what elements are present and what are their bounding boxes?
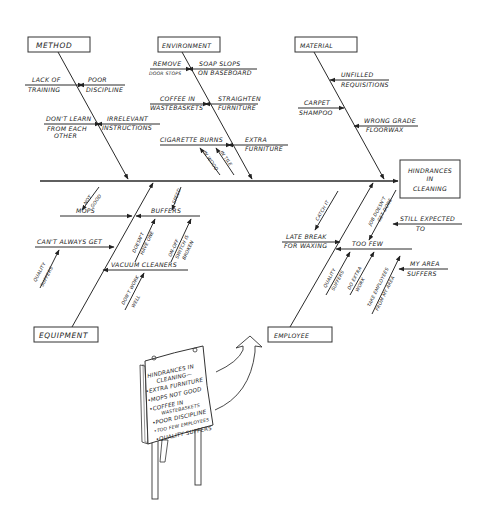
cause-text: POOR	[88, 76, 107, 83]
cause-text: CAN'T ALWAYS GET	[37, 238, 103, 245]
equipment-branch: EQUIPMENT NOT GOOD MOPS SPEED BUFFERS DO…	[32, 183, 200, 342]
fishbone-diagram: HINDRANCES IN CLEANING METHOD LACK OF TR…	[0, 0, 483, 523]
environment-branch: ENVIRONMENT REMOVE DOOR STOPS SOAP SLOPS…	[149, 37, 288, 179]
cause-text: DON'T LEARN	[46, 115, 92, 122]
cause-text: REMOVE	[153, 60, 181, 67]
cause-text: FROM EACH	[47, 125, 87, 132]
cause-text: STRAIGHTEN	[218, 95, 261, 102]
cause-text: REQUISITIONS	[341, 81, 389, 88]
cause-text: INSTRUCTIONS	[102, 124, 152, 131]
environment-label: ENVIRONMENT	[162, 42, 212, 49]
cause-text: OTHER	[54, 132, 77, 139]
sign-post-back	[160, 440, 168, 462]
cause-text: FLOORWAX	[366, 126, 404, 133]
effect-line2: IN	[426, 175, 433, 182]
cause-text: TRAINING	[28, 86, 60, 93]
employee-label: EMPLOYEE	[274, 332, 309, 339]
effect-box: HINDRANCES IN CLEANING	[400, 160, 460, 198]
cause-text: ON BASEBOARD	[198, 69, 252, 76]
sign-illustration: HINDRANCES IN CLEANING— •EXTRA FURNITURE…	[140, 336, 262, 499]
method-label: METHOD	[36, 41, 72, 50]
cause-text: EXTRA	[245, 136, 267, 143]
cause-text: MOPS	[76, 207, 95, 214]
cause-text: FURNITURE	[245, 145, 283, 152]
cause-text: STILL EXPECTED	[400, 215, 455, 222]
material-label: MATERIAL	[300, 42, 333, 49]
cause-text: WRONG GRADE	[364, 117, 416, 124]
cause-text: CARPET	[304, 99, 331, 106]
cause-text: SPEED	[171, 187, 182, 204]
material-branch: MATERIAL UNFILLED REQUISITIONS CARPET SH…	[295, 37, 418, 179]
cause-text: LATE BREAK	[286, 233, 327, 240]
cause-text: BUFFERS	[151, 207, 181, 214]
curved-arrow-icon	[215, 336, 262, 410]
cause-text: IRRELEVANT	[107, 115, 149, 122]
cause-text: IN TILE	[219, 150, 233, 167]
cause-text: MY AREA	[410, 260, 440, 267]
cause-text: SHAMPOO	[299, 109, 333, 116]
cause-text: WASTEBASKETS	[150, 104, 203, 111]
cause-text: DISCIPLINE	[86, 86, 123, 93]
cause-text: SOAP SLOPS	[199, 60, 240, 67]
employee-branch: EMPLOYEE CATCH IT LATE BREAK FOR WAXING …	[268, 183, 462, 342]
cause-text: IN WOOD	[202, 150, 219, 172]
method-branch: METHOD LACK OF TRAINING POOR DISCIPLINE …	[25, 37, 160, 179]
cause-text: TOO FEW	[352, 240, 384, 247]
equipment-label: EQUIPMENT	[39, 331, 88, 340]
effect-line3: CLEANING	[413, 185, 447, 192]
cause-text: LACK OF	[32, 76, 61, 83]
cause-text: FOR WAXING	[284, 242, 327, 249]
cause-text: COFFEE IN	[160, 95, 195, 102]
sign-post-right	[195, 430, 201, 485]
cause-text: CIGARETTE BURNS	[160, 136, 223, 143]
cause-text: SUFFERS	[407, 270, 437, 277]
cause-text: UNFILLED	[341, 71, 374, 78]
cause-text: TO	[416, 225, 425, 232]
cause-text: FURNITURE	[218, 104, 256, 111]
cause-text: DOOR STOPS	[149, 71, 181, 76]
effect-line1: HINDRANCES	[408, 167, 452, 174]
cause-text: VACUUM CLEANERS	[111, 261, 177, 268]
sign-post-left	[152, 439, 158, 499]
